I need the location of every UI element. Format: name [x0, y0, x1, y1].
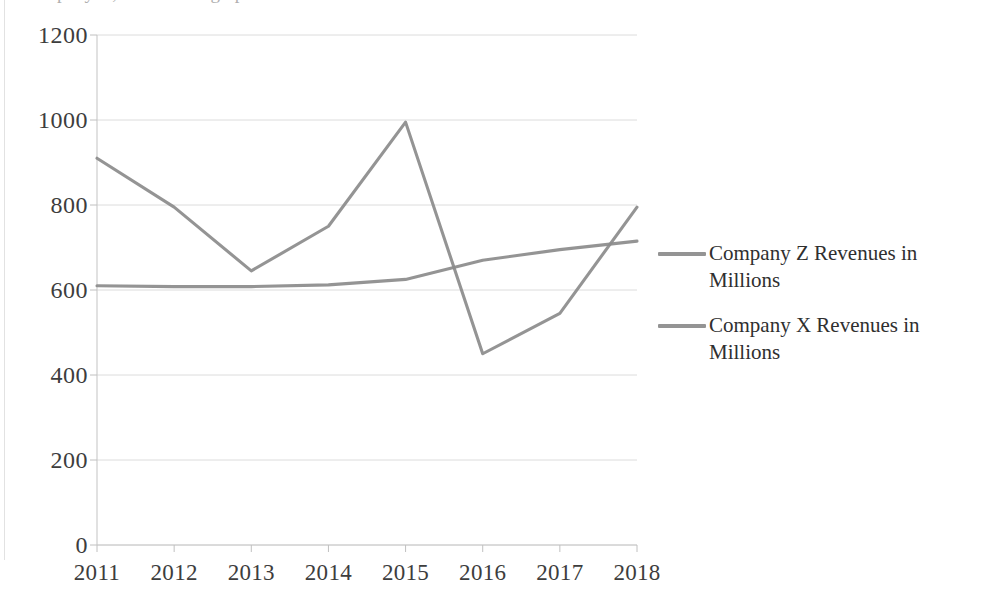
- x-axis-tick-label: 2017: [524, 558, 596, 588]
- x-axis-tick-label: 2018: [601, 558, 673, 588]
- series-line-2: [97, 241, 637, 286]
- series-line-1: [97, 122, 637, 354]
- y-axis-tick-label: 800: [2, 193, 88, 217]
- x-axis: 20112012201320142015201620172018: [97, 558, 637, 592]
- revenue-line-chart: Company X, Z revenues graph 120010008006…: [0, 0, 986, 604]
- series-group: [97, 122, 637, 354]
- y-axis: 120010008006004002000: [0, 35, 88, 545]
- gridlines: [97, 35, 637, 545]
- y-axis-tick-label: 1200: [2, 23, 88, 47]
- legend-line-swatch-icon: [658, 324, 706, 328]
- axis-tick-marks: [90, 35, 637, 552]
- plot-area: [97, 35, 637, 545]
- x-axis-tick-label: 2015: [370, 558, 442, 588]
- plot-svg: [97, 35, 637, 545]
- x-axis-tick-label: 2016: [447, 558, 519, 588]
- legend-label: Company Z Revenues in Millions: [709, 240, 959, 294]
- chart-legend: Company Z Revenues in MillionsCompany X …: [658, 240, 968, 384]
- chart-title: Company X, Z revenues graph: [20, 0, 660, 5]
- x-axis-tick-label: 2013: [215, 558, 287, 588]
- y-axis-tick-label: 200: [2, 448, 88, 472]
- legend-item[interactable]: Company Z Revenues in Millions: [658, 240, 968, 294]
- y-axis-tick-label: 600: [2, 278, 88, 302]
- legend-line-swatch-icon: [658, 252, 706, 256]
- y-axis-tick-label: 1000: [2, 108, 88, 132]
- x-axis-tick-label: 2014: [292, 558, 364, 588]
- x-axis-tick-label: 2012: [138, 558, 210, 588]
- y-axis-tick-label: 400: [2, 363, 88, 387]
- legend-label: Company X Revenues in Millions: [709, 312, 959, 366]
- legend-item[interactable]: Company X Revenues in Millions: [658, 312, 968, 366]
- y-axis-tick-label: 0: [2, 533, 88, 557]
- x-axis-tick-label: 2011: [61, 558, 133, 588]
